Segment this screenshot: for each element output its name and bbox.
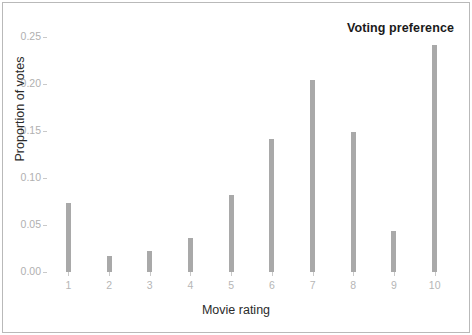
x-axis: 12345678910 (48, 272, 455, 296)
x-tick-mark-8 (353, 272, 354, 276)
bar-10 (432, 45, 437, 272)
y-tick-mark-0.10 (43, 178, 47, 179)
x-tick-mark-10 (435, 272, 436, 276)
chart-figure: Voting preference 0.000.050.100.150.200.… (0, 0, 472, 335)
x-tick-label-6: 6 (252, 279, 292, 291)
x-tick-mark-6 (272, 272, 273, 276)
bar-7 (310, 80, 315, 272)
x-tick-mark-2 (109, 272, 110, 276)
y-tick-mark-0.05 (43, 225, 47, 226)
bar-8 (351, 132, 356, 272)
x-tick-label-4: 4 (170, 279, 210, 291)
bar-3 (147, 251, 152, 272)
bar-4 (188, 238, 193, 272)
y-tick-mark-0.15 (43, 131, 47, 132)
x-tick-label-5: 5 (211, 279, 251, 291)
plot-area (48, 28, 455, 272)
bar-9 (391, 231, 396, 272)
y-tick-mark-0.20 (43, 84, 47, 85)
y-tick-label-0.05: 0.05 (21, 218, 41, 230)
x-tick-label-8: 8 (333, 279, 373, 291)
y-tick-label-0.00: 0.00 (21, 265, 41, 277)
x-tick-label-2: 2 (89, 279, 129, 291)
bar-5 (229, 195, 234, 272)
bar-2 (107, 256, 112, 272)
x-tick-mark-7 (313, 272, 314, 276)
y-tick-mark-0.25 (43, 37, 47, 38)
x-tick-label-3: 3 (130, 279, 170, 291)
y-tick-mark-0.00 (43, 272, 47, 273)
y-axis-label: Proportion of votes (13, 29, 27, 189)
x-tick-label-7: 7 (293, 279, 333, 291)
x-tick-label-9: 9 (374, 279, 414, 291)
x-tick-mark-5 (231, 272, 232, 276)
x-tick-mark-4 (190, 272, 191, 276)
x-tick-mark-3 (150, 272, 151, 276)
bar-1 (66, 203, 71, 272)
x-tick-mark-9 (394, 272, 395, 276)
x-tick-label-1: 1 (48, 279, 88, 291)
x-axis-label: Movie rating (0, 303, 472, 317)
x-tick-label-10: 10 (415, 279, 455, 291)
bar-6 (269, 139, 274, 272)
x-tick-mark-1 (68, 272, 69, 276)
